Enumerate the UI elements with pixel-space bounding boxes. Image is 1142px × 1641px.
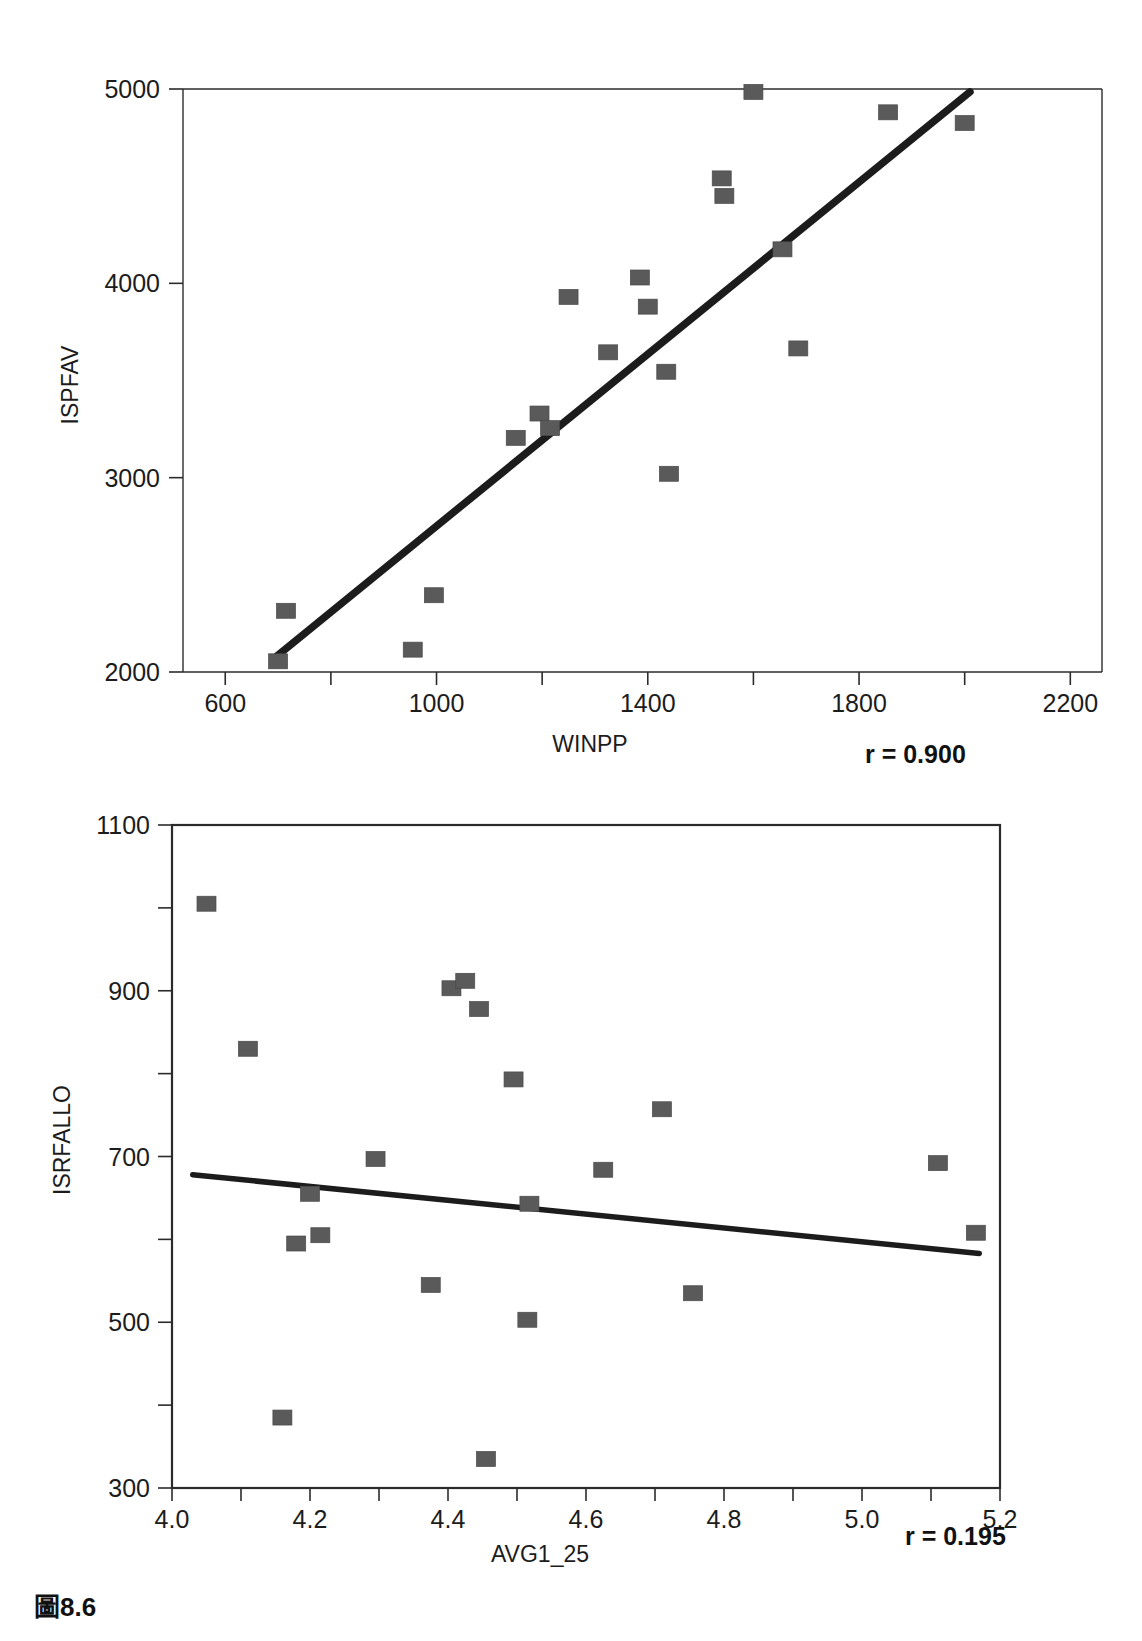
- figure-caption: 圖8.6: [34, 1586, 96, 1623]
- svg-text:900: 900: [108, 977, 150, 1005]
- svg-text:600: 600: [204, 689, 246, 717]
- svg-text:1800: 1800: [831, 689, 887, 717]
- svg-text:ISRFALLO: ISRFALLO: [49, 1085, 75, 1195]
- svg-text:4.4: 4.4: [431, 1505, 466, 1533]
- svg-text:2200: 2200: [1042, 689, 1098, 717]
- svg-text:4.2: 4.2: [293, 1505, 328, 1533]
- svg-text:4.8: 4.8: [707, 1505, 742, 1533]
- scatter-panel-ispfav-winpp: 20003000400050006001000140018002200WINPP…: [0, 0, 1142, 790]
- svg-text:2000: 2000: [104, 658, 160, 686]
- svg-text:4000: 4000: [104, 269, 160, 297]
- svg-text:1400: 1400: [620, 689, 676, 717]
- figure-container: 20003000400050006001000140018002200WINPP…: [0, 0, 1142, 1641]
- svg-text:500: 500: [108, 1308, 150, 1336]
- svg-text:4.6: 4.6: [569, 1505, 604, 1533]
- scatter-panel-isrfallo-avg125: 30050070090011004.04.24.44.64.85.05.2AVG…: [0, 790, 1142, 1580]
- svg-text:AVG1_25: AVG1_25: [491, 1541, 589, 1567]
- svg-text:3000: 3000: [104, 464, 160, 492]
- svg-text:1100: 1100: [96, 811, 150, 839]
- svg-text:300: 300: [108, 1474, 150, 1502]
- svg-text:1000: 1000: [409, 689, 465, 717]
- svg-text:WINPP: WINPP: [552, 731, 627, 757]
- svg-text:5.0: 5.0: [845, 1505, 880, 1533]
- svg-text:700: 700: [108, 1143, 150, 1171]
- correlation-label-1: r = 0.900: [865, 740, 966, 769]
- svg-text:5000: 5000: [104, 75, 160, 103]
- svg-text:ISPFAV: ISPFAV: [57, 345, 83, 424]
- correlation-label-2: r = 0.195: [905, 1522, 1006, 1551]
- scatter-plot-1: 20003000400050006001000140018002200WINPP…: [0, 0, 1142, 790]
- svg-text:4.0: 4.0: [155, 1505, 190, 1533]
- scatter-plot-2: 30050070090011004.04.24.44.64.85.05.2AVG…: [0, 790, 1142, 1580]
